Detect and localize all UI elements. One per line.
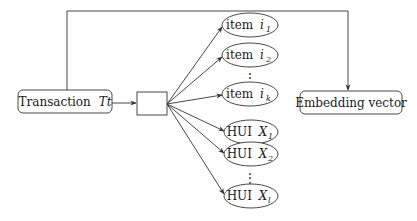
item-node-i1: item i 1 xyxy=(222,13,278,37)
item-variable: i xyxy=(260,87,264,101)
item-subscript: 2 xyxy=(265,55,271,64)
hui-node-xl: HUI X l xyxy=(224,184,278,208)
svg-text:Transaction Tt: Transaction Tt xyxy=(19,95,112,109)
item-subscript: k xyxy=(266,94,271,103)
svg-text:HUI X: HUI X xyxy=(227,125,268,139)
edge-to-item-i1 xyxy=(167,27,222,104)
item-prefix: item xyxy=(226,48,254,62)
hui-ellipsis: ⋮ xyxy=(244,171,256,185)
hui-variable: X xyxy=(258,125,268,139)
hui-node-x1: HUI X 1 xyxy=(224,120,278,144)
hui-prefix: HUI xyxy=(227,189,253,203)
hui-variable: X xyxy=(258,189,268,203)
edge-to-hui-x2 xyxy=(167,104,224,153)
edge-to-item-i2 xyxy=(167,57,222,104)
transaction-node: Transaction Tt xyxy=(18,90,112,113)
hui-node-x2: HUI X 2 xyxy=(224,142,278,166)
fanout-edges xyxy=(167,27,224,194)
hui-subscript: l xyxy=(268,196,271,205)
hui-subscript: 2 xyxy=(267,154,273,163)
item-subscript: 1 xyxy=(266,25,271,34)
edge-transaction-to-embedding xyxy=(67,11,348,90)
item-node-i2: item i 2 xyxy=(222,43,278,67)
item-node-ik: item i k xyxy=(222,82,278,106)
transaction-label: Transaction xyxy=(19,95,92,109)
svg-text:HUI X: HUI X xyxy=(227,147,268,161)
hui-prefix: HUI xyxy=(227,147,253,161)
item-prefix: item xyxy=(226,18,254,32)
splitter-node xyxy=(137,92,167,115)
embedding-vector-label: Embedding vector xyxy=(295,96,407,110)
item-variable: i xyxy=(260,18,264,32)
hui-subscript: 1 xyxy=(268,132,273,141)
item-prefix: item xyxy=(226,87,254,101)
item-variable: i xyxy=(260,48,264,62)
hui-prefix: HUI xyxy=(227,125,253,139)
edge-to-item-ik xyxy=(167,95,222,104)
embedding-vector-node: Embedding vector xyxy=(295,91,407,114)
svg-text:HUI X: HUI X xyxy=(227,189,268,203)
diagram-canvas: Transaction Tt Embedding vector item i 1… xyxy=(0,0,417,221)
transaction-variable: Tt xyxy=(99,95,112,109)
hui-variable: X xyxy=(258,147,268,161)
